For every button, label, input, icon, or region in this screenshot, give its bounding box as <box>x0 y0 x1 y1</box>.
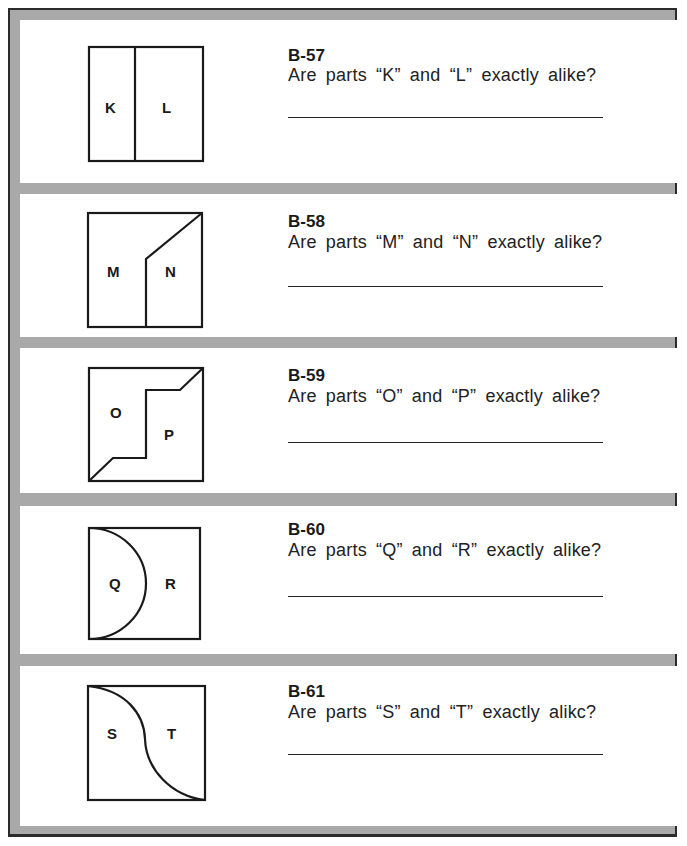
part-label: L <box>162 99 171 116</box>
question-id: B-57 <box>288 46 325 66</box>
figure-b57: K L <box>87 45 207 165</box>
question-panel-b61: S T B-61 Are parts “S” and “T” exactly a… <box>20 666 678 826</box>
question-id: B-59 <box>288 366 325 386</box>
answer-line[interactable] <box>288 286 603 287</box>
part-label: S <box>107 725 117 742</box>
question-text: Are parts “M” and “N” exactly alike? <box>288 232 602 253</box>
question-text: Are parts “S” and “T” exactly alikc? <box>288 702 596 723</box>
question-panel-b59: O P B-59 Are parts “O” and “P” exactly a… <box>20 348 678 493</box>
part-label: Q <box>109 575 121 592</box>
part-label: R <box>165 575 176 592</box>
part-label: T <box>167 725 176 742</box>
question-panel-b60: Q R B-60 Are parts “Q” and “R” exactly a… <box>20 506 678 654</box>
answer-line[interactable] <box>288 442 603 443</box>
question-text: Are parts “O” and “P” exactly alike? <box>288 386 600 407</box>
part-label: N <box>165 263 176 280</box>
part-label: P <box>164 426 174 443</box>
part-label: K <box>105 99 116 116</box>
worksheet-frame: K L B-57 Are parts “K” and “L” exactly a… <box>8 8 677 837</box>
figure-b60: Q R <box>87 526 207 646</box>
figure-b61: S T <box>86 684 211 804</box>
answer-line[interactable] <box>288 754 603 755</box>
answer-line[interactable] <box>288 117 603 118</box>
part-label: O <box>110 404 122 421</box>
question-id: B-61 <box>288 682 325 702</box>
question-text: Are parts “Q” and “R” exactly alike? <box>288 540 601 561</box>
question-panel-b57: K L B-57 Are parts “K” and “L” exactly a… <box>20 20 678 183</box>
answer-line[interactable] <box>288 596 603 597</box>
figure-b58: M N <box>86 211 206 331</box>
question-text: Are parts “K” and “L” exactly alike? <box>288 65 596 86</box>
question-panel-b58: M N B-58 Are parts “M” and “N” exactly a… <box>20 194 678 337</box>
question-id: B-60 <box>288 520 325 540</box>
part-label: M <box>107 263 120 280</box>
figure-b59: O P <box>87 366 207 486</box>
question-id: B-58 <box>288 212 325 232</box>
